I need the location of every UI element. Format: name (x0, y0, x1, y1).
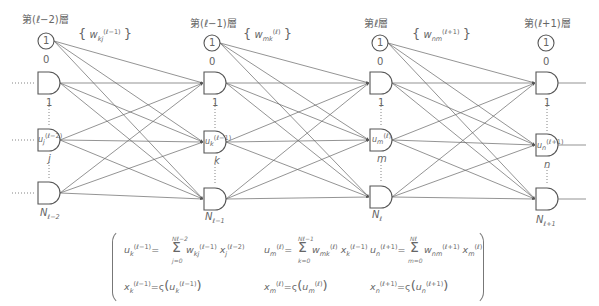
ellipsis-dots (12, 83, 547, 193)
node-var-u-n: un(ℓ+1) (537, 139, 564, 152)
bias-one-label-3: 1 (543, 38, 549, 48)
sum-lower-3: m=0 (408, 257, 423, 264)
node-var-u-j: uj(ℓ−2) (38, 133, 62, 146)
node-index-top-0: 1 (46, 98, 52, 108)
neuron-node-1-2 (204, 188, 226, 210)
formula-u-n: un(ℓ+1)= (370, 243, 405, 258)
sigma-3: Σ (410, 239, 419, 255)
node-index-bottom-0: Nℓ−2 (40, 208, 60, 221)
neuron-node-2-0 (370, 72, 392, 94)
formula-x-m: xm(ℓ)=ς(um(ℓ)) (264, 278, 328, 295)
sigma-2: Σ (298, 239, 307, 255)
node-index-mid-0: j (48, 154, 51, 164)
node-index-bottom-3: Nℓ+1 (536, 215, 556, 228)
node-var-u-k: uk(ℓ−1) (205, 135, 231, 148)
layer-title-l-minus-2: 第(ℓ−2)層 (22, 15, 69, 25)
formula-w-x-1: wkj(ℓ−1) xj(ℓ−2) (186, 243, 245, 258)
neuron-node-0-0 (38, 72, 60, 94)
layer-title-l-minus-1: 第(ℓ−1)層 (190, 19, 237, 29)
neuron-node-1-0 (204, 72, 226, 94)
node-index-top-3: 1 (544, 98, 550, 108)
layer-title-l-plus-1: 第(ℓ+1)層 (524, 19, 571, 29)
neuron-node-3-2 (536, 188, 558, 210)
bias-one-label-2: 1 (377, 38, 383, 48)
formula-w-x-2: wmk(ℓ) xk(ℓ−1) (312, 243, 367, 258)
neuron-node-2-2 (370, 186, 392, 208)
neuron-node-0-2 (38, 182, 60, 204)
weight-set-label-kj: { wkj(ℓ−1) } (78, 27, 132, 43)
node-index-top-2: 1 (378, 98, 384, 108)
formula-x-n: xn(ℓ+1)=ς(un(ℓ+1)) (370, 278, 448, 295)
formula-x-k: xk(ℓ−1)=ς(uk(ℓ−1)) (124, 278, 202, 295)
node-index-mid-1: k (214, 156, 220, 166)
node-index-bottom-1: Nℓ−1 (205, 212, 225, 225)
neuron-node-3-0 (536, 72, 558, 94)
bias-index-1: 0 (209, 57, 215, 67)
node-index-bottom-2: Nℓ (372, 210, 382, 223)
node-index-top-1: 1 (212, 98, 218, 108)
weight-set-label-mk: { wmk(ℓ) } (243, 27, 292, 43)
node-index-mid-2: m (377, 154, 387, 164)
node-var-u-m: um(ℓ) (372, 133, 391, 146)
bias-index-0: 0 (43, 55, 49, 65)
formula-w-x-3: wnm(ℓ+1) xm(ℓ) (424, 243, 482, 258)
bias-index-3: 0 (543, 57, 549, 67)
formula-u-k: uk(ℓ−1)= (124, 243, 159, 258)
sum-lower-2: k=0 (298, 257, 310, 264)
sigma-1: Σ (172, 239, 181, 255)
connection-edges (54, 41, 586, 199)
weight-set-label-nm: { wnm(ℓ+1) } (412, 27, 471, 43)
formula-block: uk(ℓ−1)= Nℓ−2 Σ j=0 wkj(ℓ−1) xj(ℓ−2) xk(… (112, 229, 484, 305)
bias-one-label-0: 1 (43, 36, 49, 46)
bias-one-label-1: 1 (209, 38, 215, 48)
right-paren (471, 229, 484, 305)
formula-u-m: um(ℓ)= (264, 243, 292, 258)
layer-title-l: 第ℓ層 (364, 19, 388, 29)
node-index-mid-3: n (544, 160, 550, 170)
bias-index-2: 0 (377, 57, 383, 67)
sum-lower-1: j=0 (172, 257, 183, 264)
